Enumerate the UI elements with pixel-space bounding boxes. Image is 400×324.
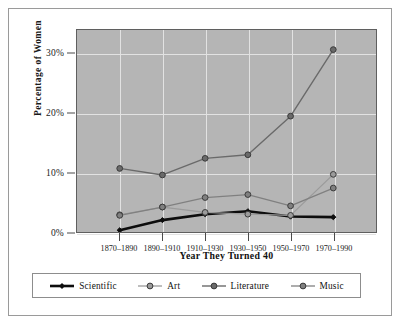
- y-tick-mark: [67, 233, 75, 234]
- data-point: [202, 195, 208, 201]
- data-point: [288, 212, 294, 218]
- x-tick-mark: [205, 233, 206, 241]
- series-scientific: [117, 209, 336, 232]
- x-tick-mark: [334, 233, 335, 241]
- y-tick-mark: [67, 53, 75, 54]
- chart-legend: ScientificArtLiteratureMusic: [32, 273, 361, 298]
- data-point: [202, 210, 208, 216]
- x-tick-mark: [291, 233, 292, 241]
- data-point: [288, 203, 294, 209]
- legend-item-art[interactable]: Art: [137, 281, 180, 291]
- series-line: [120, 211, 334, 230]
- data-point: [160, 204, 166, 210]
- legend-swatch-icon: [290, 281, 316, 291]
- data-point: [202, 155, 208, 161]
- data-point: [117, 228, 122, 232]
- figure-frame: Percentage of Women 0%10%20%30% 1870–189…: [8, 8, 392, 316]
- x-axis-title: Year They Turned 40: [76, 250, 377, 261]
- series-line: [120, 50, 334, 175]
- y-axis: Percentage of Women 0%10%20%30%: [9, 9, 76, 241]
- data-point: [245, 192, 251, 198]
- x-tick-mark: [248, 233, 249, 241]
- data-point: [160, 172, 166, 178]
- legend-swatch-icon: [201, 281, 227, 291]
- data-point: [117, 166, 123, 172]
- legend-label: Literature: [231, 281, 270, 291]
- y-tick-label: 10%: [46, 168, 64, 178]
- series-literature: [117, 47, 336, 178]
- legend-item-music[interactable]: Music: [290, 281, 344, 291]
- series-line: [120, 188, 334, 215]
- data-point: [330, 47, 336, 53]
- y-tick-mark: [67, 173, 75, 174]
- series-art: [117, 171, 336, 218]
- legend-swatch-icon: [49, 281, 75, 291]
- data-point: [117, 212, 123, 218]
- x-tick-mark: [119, 233, 120, 241]
- series-layer: [77, 30, 376, 232]
- legend-label: Scientific: [79, 281, 117, 291]
- data-point: [288, 113, 294, 119]
- data-point: [245, 211, 251, 217]
- data-point: [330, 171, 336, 177]
- y-tick-label: 30%: [46, 48, 64, 58]
- legend-label: Art: [167, 281, 180, 291]
- data-point: [245, 152, 251, 158]
- plot-area: [76, 29, 377, 233]
- y-tick-label: 0%: [51, 228, 64, 238]
- data-point: [330, 185, 336, 191]
- legend-item-literature[interactable]: Literature: [201, 281, 270, 291]
- legend-label: Music: [320, 281, 344, 291]
- data-point: [160, 218, 165, 223]
- y-tick-label: 20%: [46, 108, 64, 118]
- legend-item-scientific[interactable]: Scientific: [49, 281, 117, 291]
- data-point: [331, 215, 336, 220]
- legend-swatch-icon: [137, 281, 163, 291]
- y-tick-mark: [67, 113, 75, 114]
- y-axis-title: Percentage of Women: [33, 0, 43, 143]
- x-tick-mark: [162, 233, 163, 241]
